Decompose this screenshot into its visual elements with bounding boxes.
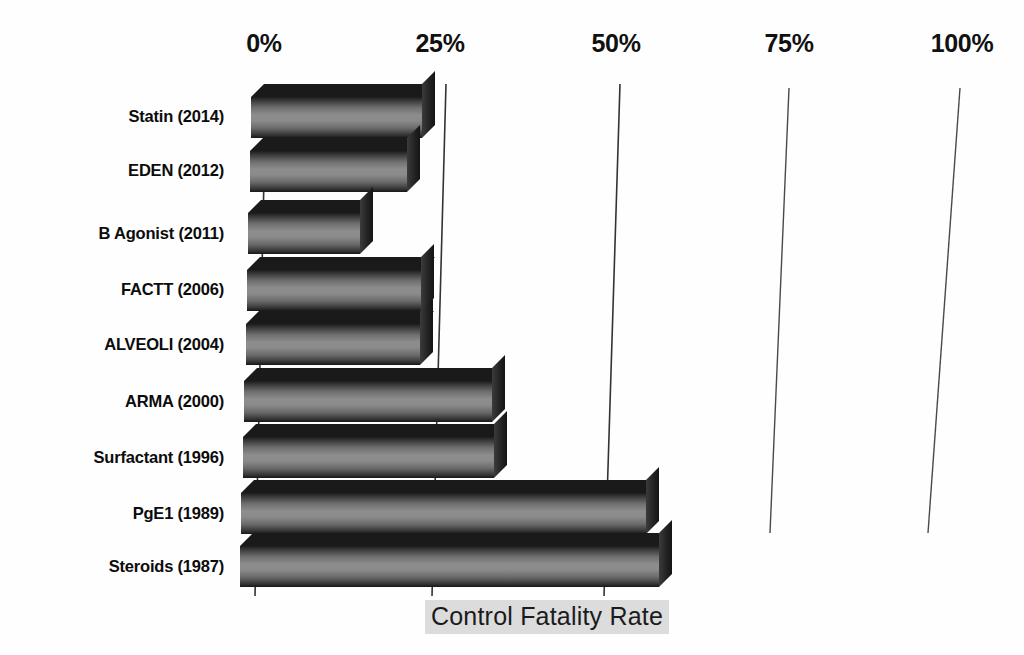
bar-front-face <box>241 493 646 534</box>
bar-front-face <box>248 213 360 254</box>
bar-b-agonist-2011 <box>248 213 360 254</box>
bar-front-face <box>246 324 421 365</box>
plot-area <box>0 0 1024 655</box>
bar-top-face <box>248 200 373 213</box>
bar-top-face <box>250 138 420 151</box>
bar-front-face <box>250 151 407 192</box>
bar-top-face <box>251 84 435 97</box>
bar-chart: 0% 25% 50% 75% 100% Statin (2014) EDEN (… <box>0 0 1024 655</box>
bar-front-face <box>247 270 422 311</box>
bar-end-cap <box>494 411 507 478</box>
bar-eden-2012 <box>250 151 407 192</box>
bar-steroids-1987 <box>240 546 659 587</box>
bar-end-cap <box>659 520 672 587</box>
bar-surfactant-1996 <box>243 437 494 478</box>
x-axis-title: Control Fatality Rate <box>425 600 669 634</box>
bar-front-face <box>240 546 659 587</box>
bar-factt-2006 <box>247 270 422 311</box>
bar-top-face <box>246 311 434 324</box>
bar-front-face <box>251 97 422 138</box>
bar-end-cap <box>420 298 433 365</box>
bar-end-cap <box>646 467 659 534</box>
bar-end-cap <box>407 125 420 192</box>
bar-top-face <box>244 368 505 381</box>
bar-pge1-1989 <box>241 493 646 534</box>
bar-statin-2014 <box>251 97 422 138</box>
bar-top-face <box>243 424 507 437</box>
bar-top-face <box>240 533 672 546</box>
bar-top-face <box>247 257 435 270</box>
bar-end-cap <box>422 71 435 138</box>
bar-alveoli-2004 <box>246 324 421 365</box>
bar-front-face <box>244 381 492 422</box>
bar-end-cap <box>492 355 505 422</box>
bar-front-face <box>243 437 494 478</box>
bar-arma-2000 <box>244 381 492 422</box>
bar-end-cap <box>360 187 373 254</box>
bar-top-face <box>241 480 659 493</box>
